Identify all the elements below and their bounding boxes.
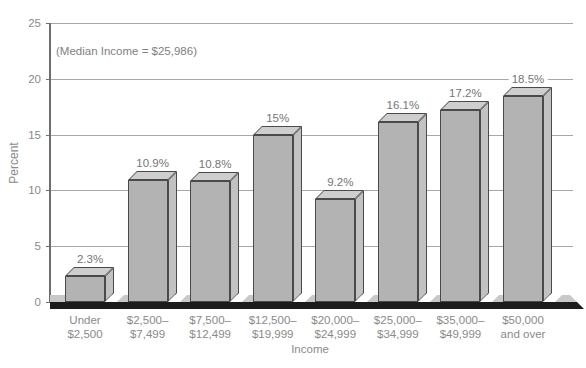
y-tick-label: 15: [0, 129, 41, 141]
bar-side-face: [293, 126, 302, 302]
floor-front-edge: [50, 302, 584, 309]
gridline: [50, 23, 573, 24]
bar-side-face: [168, 171, 177, 302]
bar: [190, 181, 230, 302]
bar: [315, 199, 355, 302]
bar: [503, 96, 543, 302]
bar-side-face: [480, 101, 489, 302]
category-label: $25,000– $34,999: [374, 313, 422, 341]
bar-value-label: 10.8%: [196, 158, 235, 171]
y-tick-label: 0: [0, 296, 41, 308]
bar: [128, 180, 168, 302]
bar-front-face: [190, 181, 230, 302]
y-tick-label: 20: [0, 73, 41, 85]
bar-front-face: [65, 276, 105, 302]
bar: [253, 135, 293, 302]
bar: [378, 122, 418, 302]
bar-side-face: [418, 113, 427, 302]
bar-value-label: 10.9%: [133, 157, 172, 170]
category-label: Under $2,500: [67, 313, 102, 341]
bar-front-face: [128, 180, 168, 302]
bar-side-face: [355, 190, 364, 302]
bar-value-label: 9.2%: [324, 176, 356, 189]
bar: [65, 276, 105, 302]
bar-value-label: 17.2%: [446, 87, 485, 100]
bar-front-face: [503, 96, 543, 302]
bar-front-face: [253, 135, 293, 302]
y-tick: [46, 302, 50, 303]
y-tick-label: 25: [0, 17, 41, 29]
category-label: $50,000 and over: [501, 313, 546, 341]
bar-side-face: [543, 87, 552, 302]
y-tick-label: 10: [0, 184, 41, 196]
bar-front-face: [378, 122, 418, 302]
bar-value-label: 18.5%: [509, 73, 548, 86]
category-label: $12,500– $19,999: [249, 313, 297, 341]
bar-value-label: 15%: [263, 112, 292, 125]
bar-front-face: [440, 110, 480, 302]
gridline: [50, 79, 573, 80]
y-axis-line: [49, 23, 51, 302]
category-label: $20,000– $24,999: [311, 313, 359, 341]
bar-value-label: 16.1%: [384, 99, 423, 112]
category-label: $7,500– $12,499: [189, 313, 231, 341]
category-label: $35,000– $49,999: [436, 313, 484, 341]
category-label: $2,500– $7,499: [127, 313, 169, 341]
bar-front-face: [315, 199, 355, 302]
x-axis-title: Income: [291, 343, 329, 355]
median-income-annotation: (Median Income = $25,986): [56, 45, 197, 57]
y-tick-label: 5: [0, 240, 41, 252]
bar-side-face: [230, 172, 239, 302]
bar: [440, 110, 480, 302]
income-distribution-bar-chart: (Median Income = $25,986) Percent Income…: [0, 0, 586, 368]
y-axis-title: Percent: [7, 93, 21, 233]
bar-value-label: 2.3%: [74, 253, 106, 266]
gridline: [50, 135, 573, 136]
